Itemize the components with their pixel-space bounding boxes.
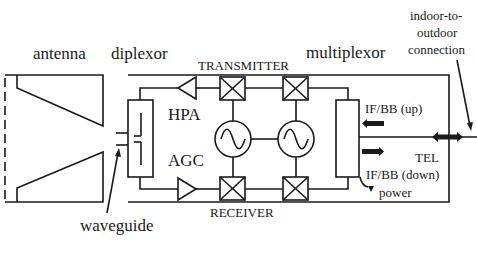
indoor-outdoor-label-line2: outdoor [417,26,457,39]
hpa-amplifier-icon [178,77,196,99]
if-bb-up-arrow-icon [362,119,384,128]
diagram-canvas: antenna diplexor TRANSMITTER multiplexor… [0,0,477,258]
antenna-icon [5,75,103,202]
waveguide-pointer-arrow-icon [107,148,121,213]
waveguide-icon [116,133,128,145]
mixer-icon [220,77,245,100]
power-label: power [379,186,412,199]
multiplexor-label: multiplexor [306,44,385,61]
mixer-icon [283,77,308,100]
transmitter-label: TRANSMITTER [198,59,289,72]
oscillator-icon [215,100,251,177]
if-bb-down-arrow-icon [362,147,384,156]
receiver-label: RECEIVER [210,206,274,219]
diplexor-icon [128,100,153,177]
antenna-label: antenna [33,45,86,62]
if-bb-down-label: IF/BB (down) [366,168,439,181]
hpa-label: HPA [168,106,200,123]
waveguide-label: waveguide [80,217,154,234]
oscillator-icon [278,100,314,177]
diplexor-label: diplexor [111,45,168,62]
if-bb-up-label: IF/BB (up) [365,102,422,115]
indoor-outdoor-label-line1: indoor-to- [410,9,462,22]
mixer-icon [283,177,308,200]
mixer-icon [220,177,245,200]
agc-label: AGC [168,152,204,169]
indoor-outdoor-label-line3: connection [408,43,465,56]
multiplexor-icon [336,100,359,177]
tel-label: TEL [415,151,439,164]
tel-bidirectional-arrow-icon [432,132,463,142]
connection-pointer-arrow-icon [457,60,473,131]
agc-amplifier-icon [178,178,196,200]
